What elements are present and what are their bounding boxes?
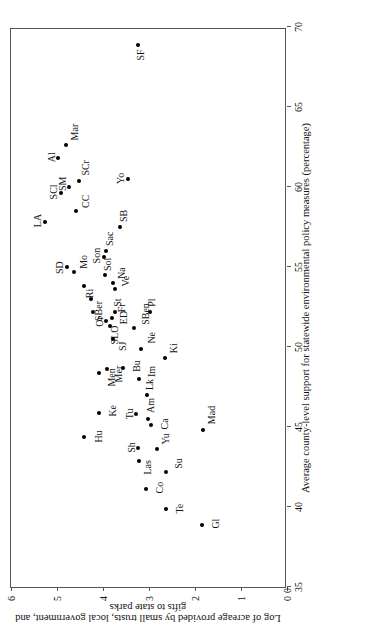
data-point-label: Pl	[147, 298, 157, 306]
x-axis-tick	[287, 26, 291, 27]
data-point-label: Mad	[207, 406, 217, 424]
y-axis-tick	[241, 587, 242, 591]
y-axis-title: Log of acreage provided by small trusts,…	[10, 602, 286, 624]
y-axis-tick	[149, 587, 150, 591]
data-point-label: Te	[175, 504, 185, 514]
data-point	[91, 310, 95, 314]
data-point-label: LA	[33, 214, 43, 227]
data-point-label: Am	[146, 398, 156, 413]
data-point	[105, 367, 109, 371]
data-point	[155, 447, 159, 451]
data-point	[104, 319, 108, 323]
data-point	[77, 179, 81, 183]
y-axis-tick-label: 0	[282, 596, 293, 601]
data-point-label: Son	[92, 248, 102, 264]
y-axis-tick	[11, 587, 12, 591]
data-point-label: Al	[47, 152, 57, 162]
figure-canvas: 35404550556065700123456SFMarAlSCrSMSClCC…	[0, 0, 374, 640]
data-point-label: ED	[119, 311, 129, 324]
data-point	[118, 225, 122, 229]
y-axis-tick-label: 2	[190, 596, 201, 601]
data-point-label: SM	[58, 177, 68, 191]
data-point-label: SB	[119, 210, 129, 222]
x-axis-tick	[287, 266, 291, 267]
data-point-label: Su	[174, 458, 184, 469]
y-axis-origin-label: 0	[282, 588, 293, 593]
data-point-label: Ne	[147, 332, 157, 344]
data-point	[72, 270, 76, 274]
data-point	[103, 273, 107, 277]
data-point-label: Lk	[145, 379, 155, 390]
scatter-plot-figure: 35404550556065700123456SFMarAlSCrSMSClCC…	[0, 0, 374, 640]
data-point	[74, 209, 78, 213]
y-axis-tick	[57, 587, 58, 591]
data-point	[137, 459, 141, 463]
data-point	[148, 310, 152, 314]
x-axis-tick	[287, 186, 291, 187]
data-point-label: Gl	[211, 519, 221, 529]
data-point	[139, 347, 143, 351]
data-point-label: Ki	[169, 343, 179, 353]
data-point-label: Yo	[116, 173, 126, 184]
data-point-label: Bu	[132, 360, 142, 372]
data-point	[136, 43, 140, 47]
data-point-label: Yu	[161, 433, 171, 444]
data-point	[126, 177, 130, 181]
data-point	[121, 366, 125, 370]
data-point-label: Ke	[108, 405, 118, 417]
data-point-label: Las	[143, 460, 153, 474]
data-point-label: CC	[81, 195, 91, 208]
data-point	[164, 470, 168, 474]
data-point-label: Mo	[79, 255, 89, 269]
x-axis-tick	[287, 346, 291, 347]
y-axis-tick-label: 6	[6, 596, 17, 601]
data-point	[65, 265, 69, 269]
data-point-label: Sol	[103, 258, 113, 271]
data-point-label: SJ	[118, 342, 128, 351]
y-axis-tick	[195, 587, 196, 591]
data-point-label: Mar	[70, 124, 80, 141]
data-point-label: Ca	[160, 418, 170, 429]
data-point	[200, 523, 204, 527]
data-point	[145, 393, 149, 397]
data-point-label: Ve	[121, 276, 131, 287]
y-axis-tick-label: 1	[236, 596, 247, 601]
x-axis-title: Average county-level support for statewi…	[300, 28, 311, 588]
data-point	[43, 220, 47, 224]
y-axis-tick-label: 3	[144, 596, 155, 601]
data-point-label: SCl	[49, 184, 59, 199]
data-point-label: Co	[155, 482, 165, 494]
data-point-label: Sac	[105, 232, 115, 246]
data-point	[111, 337, 115, 341]
data-point-label: SCr	[81, 160, 91, 176]
data-point	[132, 326, 136, 330]
data-point	[82, 284, 86, 288]
x-axis-tick	[287, 106, 291, 107]
x-axis-tick	[287, 426, 291, 427]
data-point	[110, 316, 114, 320]
data-point	[64, 143, 68, 147]
data-point	[137, 377, 141, 381]
y-axis-tick-label: 5	[52, 596, 63, 601]
data-point	[149, 423, 153, 427]
data-point-label: Hu	[94, 430, 104, 442]
data-point	[113, 287, 117, 291]
data-point	[82, 435, 86, 439]
data-point	[104, 249, 108, 253]
data-point	[108, 324, 112, 328]
plot-area: 35404550556065700123456SFMarAlSCrSMSClCC…	[10, 28, 286, 588]
data-point-label: Im	[147, 366, 157, 377]
data-point	[59, 191, 63, 195]
data-point	[97, 371, 101, 375]
data-point-label: SF	[136, 49, 146, 60]
data-point	[201, 428, 205, 432]
data-point-label: SD	[55, 261, 65, 274]
x-axis-tick	[287, 506, 291, 507]
y-axis-tick-label: 4	[98, 596, 109, 601]
y-axis-tick	[103, 587, 104, 591]
data-point	[146, 417, 150, 421]
data-point	[164, 507, 168, 511]
data-point	[144, 487, 148, 491]
data-point	[97, 411, 101, 415]
data-point-label: Sh	[127, 442, 137, 453]
